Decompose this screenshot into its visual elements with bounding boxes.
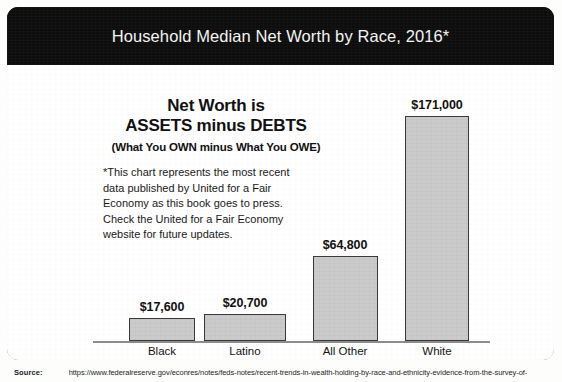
bar-all-other bbox=[313, 256, 378, 341]
bar-black bbox=[129, 318, 195, 341]
source-label: Source: bbox=[14, 368, 43, 377]
bar-texture bbox=[406, 117, 468, 340]
source-row: Source: https://www.federalreserve.gov/e… bbox=[0, 368, 562, 377]
bar-texture bbox=[314, 257, 377, 340]
footnote-text: *This chart represents the most recent d… bbox=[103, 165, 303, 243]
callout-line-1: Net Worth is bbox=[90, 96, 342, 116]
plot-area: Net Worth is ASSETS minus DEBTS (What Yo… bbox=[7, 65, 554, 360]
bar-texture bbox=[130, 319, 194, 340]
bar-texture bbox=[205, 315, 285, 340]
x-axis-line bbox=[93, 341, 490, 343]
source-url[interactable]: https://www.federalreserve.gov/econres/n… bbox=[69, 368, 528, 377]
chart-figure: Household Median Net Worth by Race, 2016… bbox=[0, 0, 562, 382]
bar-label-white: White bbox=[377, 345, 497, 357]
callout-line-3: (What You OWN minus What You OWE) bbox=[90, 141, 342, 154]
bar-value-latino: $20,700 bbox=[185, 296, 305, 310]
bar-value-white: $171,000 bbox=[377, 98, 497, 112]
title-banner: Household Median Net Worth by Race, 2016… bbox=[7, 7, 554, 65]
bar-white bbox=[405, 116, 469, 341]
bar-latino bbox=[204, 314, 286, 341]
bar-value-all-other: $64,800 bbox=[285, 238, 405, 252]
callout-headline: Net Worth is ASSETS minus DEBTS (What Yo… bbox=[90, 96, 342, 154]
callout-line-2: ASSETS minus DEBTS bbox=[90, 116, 342, 136]
page-title: Household Median Net Worth by Race, 2016… bbox=[112, 27, 450, 46]
